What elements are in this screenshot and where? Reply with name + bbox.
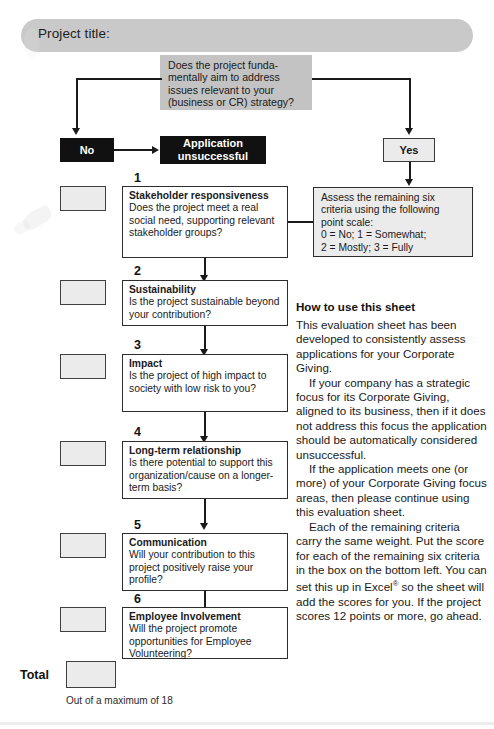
criterion-box-2: Sustainability Is the project sustainabl… — [122, 280, 288, 326]
criterion-number-3: 3 — [134, 338, 141, 352]
connector-question-right — [312, 78, 410, 80]
arrow-down-4-to-5 — [200, 523, 208, 530]
howto-paragraph-3: If the application meets one (or more) o… — [296, 462, 488, 520]
connector-no-down — [76, 78, 78, 130]
arrow-right-unsuccessful — [152, 146, 159, 154]
howto-heading: How to use this sheet — [296, 300, 486, 313]
criterion-question-3: Is the project of high impact to society… — [129, 370, 266, 393]
criterion-question-4: Is there potential to support this organ… — [129, 457, 273, 493]
connector-yes-down — [409, 78, 411, 130]
howto-paragraph-1: This evaluation sheet has been developed… — [296, 318, 488, 376]
criterion-number-1: 1 — [134, 171, 141, 185]
criterion-box-3: Impact Is the project of high impact to … — [122, 354, 288, 412]
arrow-down-assess — [405, 179, 413, 186]
evaluation-sheet: Project title: Does the project funda- m… — [0, 0, 494, 729]
criterion-number-4: 4 — [134, 425, 141, 439]
no-label: No — [80, 144, 95, 157]
criterion-number-2: 2 — [134, 264, 141, 278]
criterion-title-3: Impact — [129, 358, 282, 370]
criterion-question-5: Will your contribution to this project p… — [129, 549, 255, 585]
howto-paragraph-4: Each of the remaining criteria carry the… — [296, 520, 488, 624]
criterion-number-5: 5 — [134, 518, 141, 532]
yes-box: Yes — [383, 138, 435, 162]
strategy-question-box: Does the project funda- mentally aim to … — [160, 55, 312, 110]
yes-label: Yes — [400, 144, 419, 156]
total-input[interactable] — [66, 661, 116, 688]
howto-paragraph-4-text: Each of the remaining criteria carry the… — [296, 520, 487, 622]
criterion-title-6: Employee Involvement — [129, 611, 282, 623]
connector-3-to-4 — [204, 412, 206, 439]
criterion-question-2: Is the project sustainable beyond your c… — [129, 296, 280, 319]
scan-smudge-icon — [20, 204, 54, 232]
criterion-box-6: Employee Involvement Will the project pr… — [122, 607, 288, 659]
no-box: No — [60, 138, 114, 162]
assess-instructions-box: Assess the remaining six criteria using … — [313, 187, 473, 257]
criterion-title-1: Stakeholder responsiveness — [129, 190, 282, 202]
criterion-title-4: Long-term relationship — [129, 445, 282, 457]
criterion-question-6: Will the project promote opportunities f… — [129, 623, 252, 659]
registered-mark-icon: ® — [393, 579, 399, 588]
connector-assess-to-criteria — [288, 221, 313, 223]
score-input-6[interactable] — [60, 607, 106, 632]
strategy-question-text: Does the project funda- mentally aim to … — [168, 59, 294, 108]
connector-question-left — [76, 78, 162, 80]
assess-instructions-text: Assess the remaining six criteria using … — [321, 192, 439, 253]
criterion-box-4: Long-term relationship Is there potentia… — [122, 441, 288, 499]
scan-smudge-secondary-icon — [12, 219, 31, 236]
page-bottom-edge — [0, 722, 494, 725]
arrow-down-yes — [405, 128, 413, 135]
connector-no-to-unsuccessful — [114, 149, 154, 151]
score-input-1[interactable] — [60, 186, 106, 211]
criterion-title-5: Communication — [129, 537, 282, 549]
total-maximum-note: Out of a maximum of 18 — [66, 695, 173, 706]
project-title-label: Project title: — [38, 26, 110, 41]
howto-body: This evaluation sheet has been developed… — [296, 318, 488, 623]
project-title-bar[interactable]: Project title: — [21, 19, 473, 52]
application-unsuccessful-label: Application unsuccessful — [178, 137, 248, 162]
criterion-number-6: 6 — [134, 592, 141, 606]
criterion-box-5: Communication Will your contribution to … — [122, 533, 288, 591]
score-input-5[interactable] — [60, 533, 106, 558]
howto-paragraph-2: If your company has a strategic focus fo… — [296, 376, 488, 462]
score-input-2[interactable] — [60, 280, 106, 305]
total-label: Total — [20, 668, 49, 682]
application-unsuccessful-box: Application unsuccessful — [160, 136, 266, 164]
criterion-title-2: Sustainability — [129, 284, 282, 296]
connector-4-to-5 — [204, 499, 206, 526]
criterion-box-1: Stakeholder responsiveness Does the proj… — [122, 186, 288, 258]
arrow-down-no — [72, 128, 80, 135]
score-input-3[interactable] — [60, 354, 106, 379]
score-input-4[interactable] — [60, 441, 106, 466]
criterion-question-1: Does the project meet a real social need… — [129, 202, 274, 238]
